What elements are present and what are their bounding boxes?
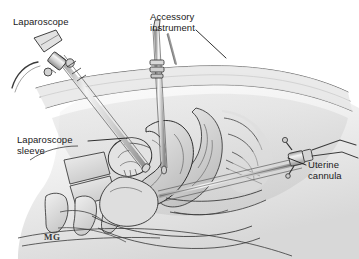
artist-signature: MG bbox=[44, 232, 60, 242]
label-laparoscope: Laparoscope bbox=[13, 17, 68, 28]
valve-knob-left bbox=[44, 68, 52, 76]
cannula-valve-knob bbox=[282, 137, 287, 142]
collar-ring-1 bbox=[150, 60, 164, 65]
collar-ring-2 bbox=[150, 67, 164, 72]
leader-accessory bbox=[196, 30, 226, 58]
valve-body bbox=[47, 51, 67, 70]
accessory-secondary-edge bbox=[167, 34, 175, 64]
label-uterine-cannula: Uterine cannula bbox=[308, 160, 342, 181]
cannula-lower-knob bbox=[286, 174, 291, 179]
illustration-canvas: MG bbox=[0, 0, 359, 259]
signature-monogram: MG bbox=[44, 232, 60, 242]
accessory-tip bbox=[161, 166, 166, 174]
label-accessory-instrument: Accessory instrument bbox=[150, 12, 195, 33]
accessory-shaft-secondary bbox=[168, 34, 176, 64]
accessory-collar bbox=[150, 60, 164, 78]
medical-illustration-figure: MG Laparoscope Accessory instrument Lapa… bbox=[0, 0, 359, 259]
collar-ring-3 bbox=[151, 74, 163, 78]
label-laparoscope-sleeve: Laparoscope sleeve bbox=[17, 135, 72, 156]
sleeve-ring-2 bbox=[72, 68, 81, 74]
